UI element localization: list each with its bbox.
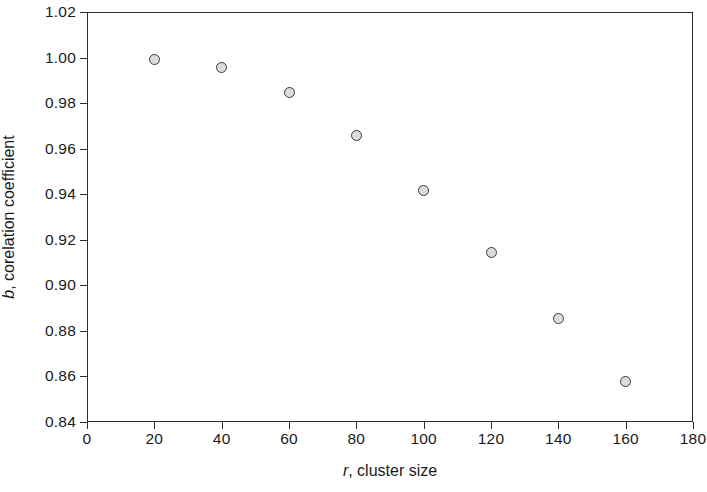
y-axis-tick [80, 149, 87, 150]
y-axis-tick-label: 1.02 [45, 3, 76, 21]
x-axis-tick [558, 422, 559, 429]
data-point-marker [553, 313, 564, 324]
x-axis-tick [87, 422, 88, 429]
y-axis-tick-label: 0.92 [45, 231, 76, 249]
x-axis-tick [693, 422, 694, 429]
scatter-chart-figure: 0.840.860.880.900.920.940.960.981.001.02… [0, 0, 707, 492]
x-axis-tick [222, 422, 223, 429]
x-axis-tick-label: 80 [348, 430, 366, 448]
data-point-marker [351, 130, 362, 141]
x-axis-title-text: , cluster size [348, 462, 437, 479]
x-axis-tick-label: 20 [146, 430, 164, 448]
x-axis-title: r, cluster size [87, 462, 693, 480]
y-axis-tick [80, 58, 87, 59]
x-axis-tick-label: 160 [612, 430, 638, 448]
y-axis-tick [80, 331, 87, 332]
data-point-marker [418, 185, 429, 196]
x-axis-tick [154, 422, 155, 429]
y-axis-tick-label: 0.98 [45, 94, 76, 112]
x-axis-tick [491, 422, 492, 429]
y-axis-title-text: , corelation coefficient [0, 135, 17, 289]
x-axis-tick [626, 422, 627, 429]
x-axis-tick [289, 422, 290, 429]
data-point-marker [284, 87, 295, 98]
y-axis-tick-label: 0.96 [45, 140, 76, 158]
x-axis-tick-label: 0 [83, 430, 92, 448]
y-axis-tick-label: 1.00 [45, 49, 76, 67]
y-axis-title-symbol: b [0, 290, 17, 299]
y-axis-tick [80, 285, 87, 286]
x-axis-tick-label: 60 [280, 430, 298, 448]
y-axis-tick-label: 0.84 [45, 413, 76, 431]
y-axis-tick [80, 376, 87, 377]
y-axis-title: b, corelation coefficient [0, 12, 22, 422]
y-axis-tick [80, 194, 87, 195]
y-axis-tick-label: 0.88 [45, 322, 76, 340]
y-axis-tick [80, 422, 87, 423]
x-axis-tick [356, 422, 357, 429]
data-point-marker [620, 376, 631, 387]
x-axis-tick-label: 100 [410, 430, 436, 448]
data-point-marker [149, 54, 160, 65]
x-axis-tick-label: 120 [478, 430, 504, 448]
plot-area: 0.840.860.880.900.920.940.960.981.001.02… [87, 12, 693, 422]
y-axis-tick-label: 0.90 [45, 276, 76, 294]
x-axis-tick-label: 140 [545, 430, 571, 448]
y-axis-tick [80, 240, 87, 241]
y-axis-tick [80, 12, 87, 13]
y-axis-tick [80, 103, 87, 104]
y-axis-tick-label: 0.86 [45, 367, 76, 385]
x-axis-tick [424, 422, 425, 429]
x-axis-tick-label: 180 [680, 430, 706, 448]
data-point-marker [216, 62, 227, 73]
x-axis-tick-label: 40 [213, 430, 231, 448]
data-point-marker [486, 247, 497, 258]
y-axis-tick-label: 0.94 [45, 185, 76, 203]
